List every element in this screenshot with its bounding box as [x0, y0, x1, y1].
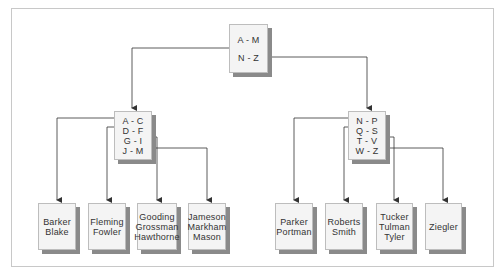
leaf-name: Tyler — [384, 232, 405, 242]
leaf-name: Fowler — [93, 227, 121, 237]
leaf-name: Hawthorne — [134, 232, 179, 242]
leaf-name: Grossman — [135, 222, 178, 232]
root-node: A - M N - Z — [229, 24, 268, 73]
leaf-node: Parker Portman — [275, 203, 313, 250]
leaf-name: Fleming — [90, 217, 123, 227]
branch-key: W - Z — [356, 146, 379, 156]
root-key-1: A - M — [237, 35, 259, 45]
leaf-node: Tucker Tulman Tyler — [376, 203, 413, 250]
leaf-node: Barker Blake — [38, 203, 76, 250]
branch-node-n-z: N - P Q - S T - V W - Z — [348, 111, 386, 160]
branch-key: T - V — [357, 136, 377, 146]
branch-key: J - M — [123, 146, 144, 156]
branch-key: D - F — [123, 126, 144, 136]
leaf-name: Tulman — [379, 222, 410, 232]
leaf-name: Jameson — [188, 212, 226, 222]
leaf-node: Jameson Markham Mason — [188, 203, 226, 250]
leaf-name: Roberts — [328, 217, 361, 227]
branch-key: N - P — [356, 116, 378, 126]
leaf-node: Ziegler — [425, 203, 462, 250]
leaf-name: Barker — [43, 217, 71, 227]
branch-node-a-m: A - C D - F G - I J - M — [114, 111, 152, 160]
leaf-name: Portman — [276, 227, 311, 237]
root-key-2: N - Z — [238, 53, 259, 63]
leaf-name: Mason — [193, 232, 221, 242]
branch-key: A - C — [122, 116, 143, 126]
leaf-name: Gooding — [139, 212, 174, 222]
leaf-name: Smith — [332, 227, 356, 237]
branch-key: Q - S — [356, 126, 378, 136]
leaf-node: Gooding Grossman Hawthorne — [137, 203, 177, 250]
leaf-name: Markham — [188, 222, 227, 232]
branch-key: G - I — [124, 136, 143, 146]
leaf-node: Fleming Fowler — [88, 203, 126, 250]
leaf-name: Tucker — [380, 212, 408, 222]
leaf-name: Blake — [45, 227, 69, 237]
leaf-node: Roberts Smith — [325, 203, 363, 250]
leaf-name: Parker — [280, 217, 308, 227]
leaf-name: Ziegler — [429, 222, 458, 232]
